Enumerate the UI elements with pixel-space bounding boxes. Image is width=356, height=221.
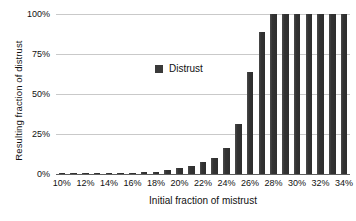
- bar: [259, 32, 266, 174]
- y-tick-label: 100%: [4, 10, 50, 19]
- x-axis-ticks: 10%12%14%16%18%20%22%24%26%28%30%32%34%: [56, 178, 350, 192]
- bar: [211, 158, 218, 174]
- bar-chart: Resulting fraction of distrust 0%25%50%7…: [0, 0, 356, 221]
- legend-swatch-distrust-icon: [155, 65, 163, 73]
- bar: [270, 14, 277, 174]
- bar: [282, 14, 289, 174]
- legend-label-distrust: Distrust: [169, 64, 203, 74]
- bar: [306, 14, 313, 174]
- bar: [341, 14, 348, 174]
- plot-area: 0%25%50%75%100%: [56, 14, 350, 174]
- x-axis-title: Initial fraction of mistrust: [56, 195, 350, 206]
- y-tick-label: 0%: [4, 170, 50, 179]
- bar: [294, 14, 301, 174]
- x-tick-label: 34%: [327, 178, 356, 189]
- chart-legend: Distrust: [155, 64, 203, 74]
- x-axis-line: [56, 174, 350, 175]
- bar-series-distrust: [56, 14, 350, 174]
- y-tick-label: 50%: [4, 90, 50, 99]
- bar: [235, 124, 242, 174]
- y-tick-label: 25%: [4, 130, 50, 139]
- y-tick-label: 75%: [4, 50, 50, 59]
- bar: [329, 14, 336, 174]
- bar: [247, 72, 254, 174]
- y-axis-title: Resulting fraction of distrust: [13, 21, 24, 181]
- bar: [200, 162, 207, 174]
- bar: [317, 14, 324, 174]
- bar: [223, 148, 230, 174]
